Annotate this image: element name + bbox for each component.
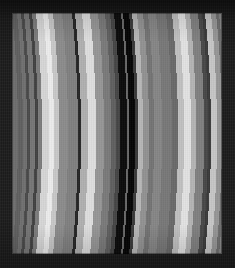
ring-scan-plate (12, 13, 222, 254)
ring-band-b-ring-midtone-b (62, 253, 73, 254)
ring-band-a-ring-mid-gray (156, 253, 167, 254)
image-viewport: Saturn ring radial scan (0, 0, 235, 268)
ring-band-a-ring-outer-shelf (219, 253, 222, 254)
ring-band-row (12, 253, 222, 254)
